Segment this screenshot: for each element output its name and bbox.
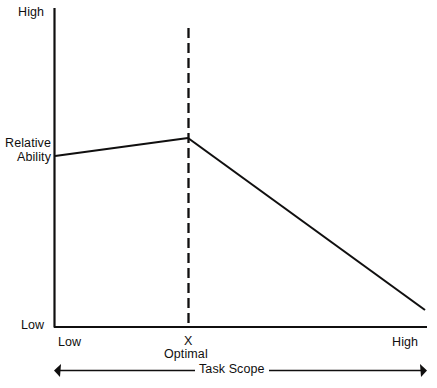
x-axis-label-high: High bbox=[392, 336, 418, 349]
data-line-declining bbox=[188, 138, 425, 310]
chart-figure: High Relative Ability Low Low X Optimal … bbox=[0, 0, 437, 388]
x-axis-label-optimal-sub: Optimal bbox=[164, 348, 208, 361]
y-axis-label-relative-ability-line1: Relative bbox=[5, 137, 51, 151]
task-scope-arrow-right-head bbox=[420, 364, 427, 377]
task-scope-arrow-left-head bbox=[54, 364, 61, 377]
x-axis-caption-task-scope: Task Scope bbox=[195, 363, 269, 376]
x-axis-label-low: Low bbox=[58, 336, 81, 349]
y-axis-label-low: Low bbox=[21, 319, 44, 332]
y-axis-label-relative-ability-line2: Ability bbox=[5, 151, 51, 165]
data-line-rising bbox=[55, 138, 188, 156]
y-axis-label-high: High bbox=[18, 6, 44, 19]
chart-plot-area bbox=[0, 0, 437, 388]
y-axis-label-relative-ability: Relative Ability bbox=[5, 137, 51, 164]
